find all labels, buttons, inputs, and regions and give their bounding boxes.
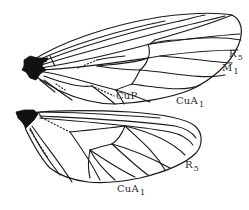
hindwing — [16, 110, 201, 183]
label-forewing-cup: CuP — [116, 91, 137, 101]
label-hindwing-r5: R5 — [185, 160, 199, 173]
wing-venation-figure: R5 M1 CuP CuA1 R5 CuA1 — [0, 0, 249, 210]
wing-drawing — [0, 0, 249, 210]
label-forewing-r5: R5 — [229, 49, 243, 62]
label-main: CuP — [116, 90, 137, 101]
label-main: R — [185, 159, 193, 170]
label-sub: 5 — [194, 164, 199, 173]
label-sub: 5 — [238, 53, 243, 62]
label-main: CuA — [117, 183, 139, 194]
label-main: CuA — [176, 95, 198, 106]
label-main: M — [222, 62, 232, 73]
label-hindwing-cua1: CuA1 — [117, 184, 145, 197]
label-sub: 1 — [199, 100, 204, 109]
label-forewing-cua1: CuA1 — [176, 96, 204, 109]
label-sub: 1 — [140, 188, 145, 197]
label-main: R — [229, 48, 237, 59]
label-forewing-m1: M1 — [222, 63, 239, 76]
label-sub: 1 — [233, 67, 238, 76]
